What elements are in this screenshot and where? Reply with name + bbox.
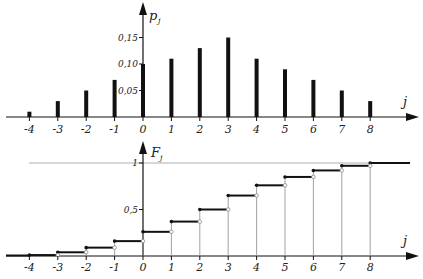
pmf-bar (340, 91, 344, 118)
chart-canvas: pjj0,050,100,15-4-3-2-1012345678 Fjj0,51… (0, 0, 423, 279)
x-tick-label: 8 (367, 123, 374, 136)
figure: pjj0,050,100,15-4-3-2-1012345678 Fjj0,51… (0, 0, 423, 279)
x-tick-label: -4 (24, 123, 35, 136)
cdf-closed-point (340, 164, 344, 168)
y-axis-arrow-icon (139, 2, 147, 15)
cdf-closed-point (170, 220, 174, 224)
pmf-bar (27, 112, 31, 117)
cdf-closed-point (141, 230, 145, 234)
x-tick-label: -1 (109, 123, 120, 136)
x-tick-label: 7 (338, 123, 345, 136)
pmf-bar (56, 101, 60, 117)
cdf-open-point (113, 246, 117, 250)
x-axis-arrow-icon (406, 113, 419, 121)
cdf-open-point (368, 164, 372, 168)
x-axis-label: j (400, 94, 407, 109)
cdf-open-point (340, 169, 344, 173)
y-tick-label: 0,05 (118, 86, 138, 96)
x-tick-label: 6 (310, 261, 317, 274)
cdf-closed-point (198, 208, 202, 212)
x-tick-label: 5 (282, 123, 289, 136)
pmf-bar (84, 91, 88, 118)
x-tick-label: -3 (52, 261, 63, 274)
pmf-bar (283, 69, 287, 117)
cdf-panel: Fjj0,51-4-3-2-1012345678 (6, 141, 419, 274)
x-tick-label: 4 (252, 123, 260, 136)
cdf-closed-point (113, 239, 117, 243)
x-axis-label: j (400, 233, 407, 248)
cdf-closed-point (226, 194, 230, 198)
cdf-open-point (198, 220, 202, 224)
cdf-open-point (84, 250, 88, 254)
x-tick-label: -4 (24, 261, 35, 274)
cdf-open-point (226, 208, 230, 212)
cdf-open-point (170, 230, 174, 234)
cdf-open-point (255, 194, 259, 198)
pmf-bar (141, 64, 145, 117)
cdf-closed-point (255, 184, 259, 188)
y-tick-label: 0,10 (118, 59, 138, 69)
pmf-bar (169, 59, 173, 117)
x-tick-label: 2 (195, 123, 203, 136)
y-tick-label: 0,15 (118, 33, 138, 43)
x-tick-label: -1 (109, 261, 120, 274)
x-tick-label: 3 (225, 123, 232, 136)
cdf-closed-point (84, 246, 88, 250)
x-tick-label: 5 (282, 261, 289, 274)
pmf-bar (255, 59, 259, 117)
pmf-bar (311, 80, 315, 117)
y-axis-arrow-icon (139, 141, 147, 154)
x-tick-label: 1 (168, 261, 175, 274)
cdf-open-point (312, 175, 316, 179)
pmf-bar (226, 38, 230, 118)
x-tick-label: -2 (81, 261, 92, 274)
pmf-bar (368, 101, 372, 117)
x-axis-arrow-icon (406, 252, 419, 260)
cdf-closed-point (283, 175, 287, 179)
x-tick-label: 2 (195, 261, 203, 274)
cdf-closed-point (312, 169, 316, 173)
y-tick-label: 1 (132, 158, 138, 168)
cdf-open-point (141, 239, 145, 243)
y-tick-label: 0,5 (124, 205, 139, 215)
x-tick-label: 1 (168, 123, 175, 136)
pmf-panel: pjj0,050,100,15-4-3-2-1012345678 (6, 2, 419, 136)
x-tick-label: 0 (140, 261, 147, 274)
x-tick-label: 8 (367, 261, 374, 274)
pmf-bar (113, 80, 117, 117)
x-tick-label: 7 (338, 261, 345, 274)
x-tick-label: -3 (52, 123, 63, 136)
x-tick-label: 3 (225, 261, 232, 274)
y-axis-label: p (149, 8, 158, 23)
x-tick-label: 6 (310, 123, 317, 136)
x-tick-label: 0 (140, 123, 147, 136)
pmf-bar (198, 48, 202, 117)
x-tick-label: 4 (252, 261, 260, 274)
cdf-open-point (283, 184, 287, 188)
x-tick-label: -2 (81, 123, 92, 136)
